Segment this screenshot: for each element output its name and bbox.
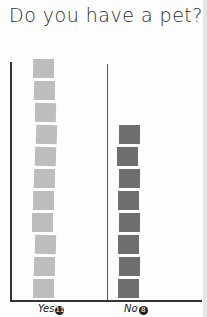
no-bar [118, 125, 139, 298]
x-label-no-text: No [124, 303, 138, 314]
chart-title: Do you have a pet? [9, 4, 203, 26]
pictograph-square [34, 169, 55, 188]
x-label-yes-text: Yes [38, 303, 54, 314]
category-divider [107, 64, 108, 302]
x-label-no: No8 [124, 303, 148, 315]
pictograph-square [33, 191, 54, 210]
pictograph-square [33, 59, 54, 78]
pictograph-square [118, 235, 139, 254]
pictograph-square [35, 147, 56, 166]
pictograph-square [33, 279, 54, 298]
pictograph-square [34, 257, 55, 276]
pictograph-square [119, 169, 140, 188]
pictograph-square [119, 257, 140, 276]
pictograph-square [35, 235, 56, 254]
pictograph-square [34, 81, 55, 100]
no-count-badge: 8 [139, 306, 148, 315]
y-axis-line [10, 62, 12, 302]
x-axis-line [10, 300, 202, 302]
yes-count-badge: 11 [55, 306, 64, 315]
pictograph-square [118, 279, 139, 298]
pictograph-square [119, 125, 140, 144]
pictograph-square [35, 103, 56, 122]
x-label-yes: Yes11 [38, 303, 64, 315]
chart-paper [0, 0, 203, 317]
pictograph-square [32, 213, 53, 232]
pictograph-square [119, 213, 140, 232]
paper-edge [203, 0, 207, 317]
pictograph-square [36, 125, 58, 145]
pictograph-square [118, 191, 139, 210]
pictograph-square [117, 147, 138, 166]
yes-bar [33, 59, 54, 298]
